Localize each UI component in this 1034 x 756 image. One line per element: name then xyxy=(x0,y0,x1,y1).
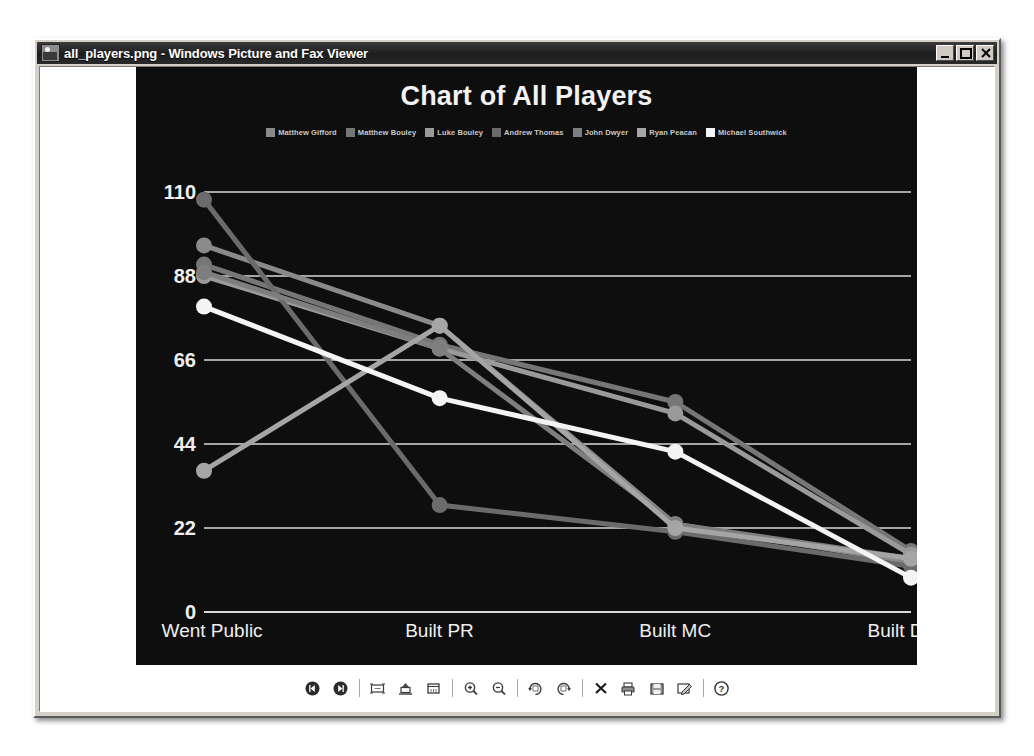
chart-svg xyxy=(136,67,917,667)
question-help-icon: ? xyxy=(714,681,729,696)
printer-icon xyxy=(620,681,637,696)
chart-data-point xyxy=(667,444,683,460)
skip-back-icon xyxy=(305,681,320,696)
window-title: all_players.png - Windows Picture and Fa… xyxy=(64,46,936,61)
chart-data-point xyxy=(196,192,212,208)
next-image-button[interactable] xyxy=(327,675,355,701)
x-axis-tick-label: Built MC xyxy=(639,620,711,642)
chart-series-line xyxy=(204,272,911,558)
y-axis-tick-label: 44 xyxy=(136,433,196,456)
toolbar-separator xyxy=(703,679,704,697)
skip-forward-icon xyxy=(333,681,348,696)
chart-series-line xyxy=(204,307,911,578)
edit-button[interactable] xyxy=(671,675,699,701)
toolbar-separator xyxy=(359,679,360,697)
actual-size-button[interactable] xyxy=(392,675,420,701)
x-axis-tick-label: Built DC xyxy=(868,620,917,642)
viewer-toolbar: ? xyxy=(40,665,994,711)
y-axis-tick-label: 88 xyxy=(136,265,196,288)
viewer-client-area: Chart of All Players Matthew GiffordMatt… xyxy=(39,66,995,712)
chart-data-point xyxy=(432,341,448,357)
chart-data-point xyxy=(432,318,448,334)
x-axis-tick-label: Built PR xyxy=(405,620,474,642)
chart-data-point xyxy=(432,497,448,513)
chart-data-point xyxy=(667,405,683,421)
chart-series-line xyxy=(204,276,911,555)
rotate-ccw-icon xyxy=(555,681,572,696)
edit-pencil-icon xyxy=(676,681,693,696)
slideshow-icon xyxy=(425,681,442,696)
window-titlebar[interactable]: all_players.png - Windows Picture and Fa… xyxy=(37,42,997,64)
toolbar-separator xyxy=(517,679,518,697)
start-slideshow-button[interactable] xyxy=(420,675,448,701)
chart-data-point xyxy=(196,299,212,315)
x-axis-tick-label: Went Public xyxy=(162,620,263,642)
help-button[interactable]: ? xyxy=(708,675,736,701)
actual-size-icon xyxy=(397,681,414,696)
chart-data-point xyxy=(667,520,683,536)
zoom-out-button[interactable] xyxy=(485,675,513,701)
print-button[interactable] xyxy=(615,675,643,701)
delete-button[interactable] xyxy=(587,675,615,701)
close-button[interactable] xyxy=(976,45,994,61)
save-disk-icon xyxy=(649,681,665,696)
chart-data-point xyxy=(196,237,212,253)
minimize-button[interactable] xyxy=(936,45,954,61)
toolbar-separator xyxy=(452,679,453,697)
chart-data-point xyxy=(432,390,448,406)
svg-text:?: ? xyxy=(719,683,725,694)
chart-plot-area: 022446688110Went PublicBuilt PRBuilt MCB… xyxy=(136,67,917,667)
close-x-icon xyxy=(593,681,609,696)
y-axis-tick-label: 110 xyxy=(136,181,196,204)
y-axis-tick-label: 22 xyxy=(136,517,196,540)
best-fit-icon xyxy=(369,681,386,696)
previous-image-button[interactable] xyxy=(299,675,327,701)
y-axis-tick-label: 66 xyxy=(136,349,196,372)
rotate-clockwise-button[interactable] xyxy=(522,675,550,701)
chart-image[interactable]: Chart of All Players Matthew GiffordMatt… xyxy=(136,67,917,667)
picture-fax-viewer-window: all_players.png - Windows Picture and Fa… xyxy=(33,38,1001,718)
best-fit-button[interactable] xyxy=(364,675,392,701)
zoom-in-button[interactable] xyxy=(457,675,485,701)
rotate-cw-icon xyxy=(527,681,544,696)
magnifier-plus-icon xyxy=(463,681,479,696)
toolbar-separator xyxy=(582,679,583,697)
chart-data-point xyxy=(196,264,212,280)
window-controls xyxy=(936,45,995,61)
image-file-icon xyxy=(41,44,60,62)
copy-to-button[interactable] xyxy=(643,675,671,701)
rotate-counterclockwise-button[interactable] xyxy=(550,675,578,701)
chart-data-point xyxy=(196,463,212,479)
magnifier-minus-icon xyxy=(491,681,507,696)
maximize-button[interactable] xyxy=(956,45,974,61)
